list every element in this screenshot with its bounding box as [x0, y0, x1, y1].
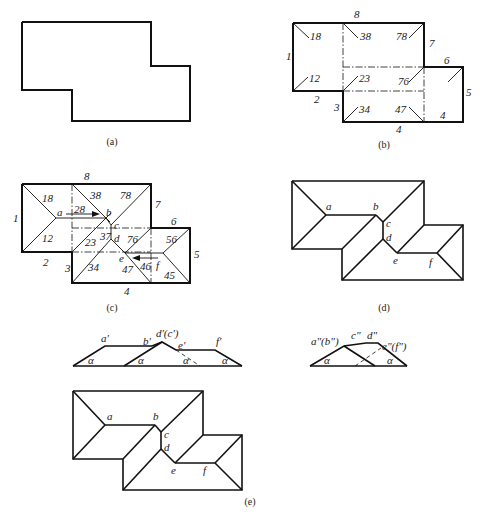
- point-label-c: c: [386, 217, 391, 229]
- plane-label: 78: [120, 189, 132, 201]
- edge-label-8: 8: [84, 170, 90, 182]
- edge-label-3: 3: [333, 101, 340, 113]
- edge-label-1: 1: [286, 50, 292, 62]
- caption-a: (a): [106, 136, 117, 148]
- plane-label: 38: [359, 30, 372, 42]
- caption-b: (b): [378, 139, 390, 151]
- angle-alpha: α: [387, 354, 393, 366]
- angle-alpha: α: [88, 354, 94, 366]
- figure-e-plan: a b c d e f (e): [73, 391, 256, 508]
- edge-label-6: 6: [171, 215, 177, 227]
- point-label-c: c: [114, 219, 119, 231]
- point-label-e: e: [119, 252, 124, 264]
- figure-b: 1 2 3 4 4 5 6 7 8 18 12 38 78 23 76 34 4…: [286, 8, 472, 151]
- plane-label: 56: [166, 233, 178, 245]
- caption-d: (d): [378, 302, 390, 314]
- point-label-c: c: [164, 428, 169, 440]
- point-label-b: b: [153, 410, 159, 422]
- plane-label: 23: [85, 236, 97, 248]
- plane-label: 47: [395, 103, 407, 115]
- edge-label-4b: 4: [440, 109, 446, 121]
- point-label-d: d: [114, 232, 120, 244]
- edge-label-2: 2: [314, 93, 320, 105]
- point-label-b: b: [106, 206, 112, 218]
- point-label-a: a: [107, 410, 113, 422]
- caption-e: (e): [244, 496, 255, 508]
- edge-label-4: 4: [396, 123, 402, 135]
- roof-intersection-diagram: (a) 1 2 3 4 4 5 6 7 8 18 12 38 78 23 76 …: [0, 0, 480, 522]
- front-label-e: e': [178, 339, 186, 351]
- plane-label: 18: [310, 30, 322, 42]
- figure-e-side-view: a"(b") c" d" e"(f") α α: [310, 329, 407, 366]
- point-label-d: d: [386, 231, 392, 243]
- point-label-f: f: [203, 464, 208, 476]
- point-label-a: a: [326, 200, 332, 212]
- plane-label: 37: [99, 230, 112, 242]
- front-label-b: b': [143, 335, 152, 347]
- plane-label: 45: [164, 269, 176, 281]
- angle-alpha: α: [138, 354, 144, 366]
- side-label-c: c": [351, 329, 361, 341]
- point-label-d: d: [164, 441, 170, 453]
- front-label-a: a': [101, 332, 110, 344]
- edge-label-5: 5: [466, 86, 472, 98]
- side-label-ab: a"(b"): [311, 335, 339, 348]
- figure-d: a b c d e f (d): [292, 181, 463, 314]
- plane-label: 34: [358, 103, 371, 115]
- plane-label: 34: [87, 261, 100, 273]
- angle-alpha: α: [183, 354, 189, 366]
- front-label-f: f': [216, 335, 222, 347]
- point-label-e: e: [393, 254, 398, 266]
- edge-label-6: 6: [444, 54, 450, 66]
- plane-label: 28: [74, 203, 86, 215]
- plane-label: 78: [396, 30, 408, 42]
- front-label-dc: d'(c'): [156, 327, 179, 340]
- plane-label: 76: [127, 233, 139, 245]
- plane-label: 18: [42, 192, 54, 204]
- edge-label-7: 7: [155, 198, 161, 210]
- figure-e-front-view: a' b' d'(c') e' f' α α α α: [73, 327, 242, 366]
- point-label-a: a: [57, 206, 63, 218]
- plane-label: 47: [122, 263, 134, 275]
- edge-label-2: 2: [43, 256, 49, 268]
- edge-label-7: 7: [429, 37, 435, 49]
- plane-label: 46: [140, 260, 152, 272]
- plane-label: 38: [89, 189, 102, 201]
- edge-label-4: 4: [124, 285, 130, 297]
- point-label-f: f: [156, 259, 161, 271]
- edge-label-3: 3: [64, 262, 71, 274]
- side-label-ef: e"(f"): [382, 340, 407, 353]
- angle-alpha: α: [324, 354, 330, 366]
- figure-a: (a): [22, 22, 190, 148]
- side-label-d: d": [367, 329, 378, 341]
- edge-label-1: 1: [13, 212, 19, 224]
- caption-c: (c): [106, 302, 117, 314]
- plane-label: 76: [398, 75, 410, 87]
- figure-c: 1 2 3 4 5 6 7 8 18 12 28 38 78 23 37 76 …: [13, 170, 200, 314]
- edge-label-5: 5: [194, 248, 200, 260]
- point-label-b: b: [373, 200, 379, 212]
- plane-label: 23: [359, 72, 371, 84]
- plane-label: 12: [42, 232, 54, 244]
- plane-label: 12: [309, 72, 321, 84]
- angle-alpha: α: [222, 354, 228, 366]
- point-label-e: e: [171, 464, 176, 476]
- point-label-f: f: [429, 256, 434, 268]
- edge-label-8: 8: [354, 8, 360, 20]
